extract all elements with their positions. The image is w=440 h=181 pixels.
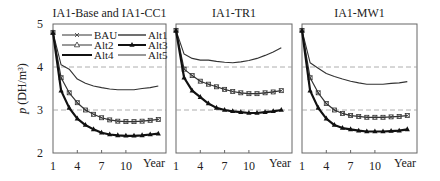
data-marker bbox=[316, 91, 320, 95]
legend-label: Alt5 bbox=[148, 49, 168, 61]
series-line bbox=[302, 30, 407, 84]
x-tick-label: 1 bbox=[50, 159, 56, 173]
legend-label: Alt4 bbox=[94, 49, 114, 61]
data-marker bbox=[59, 88, 64, 93]
series-line bbox=[176, 30, 281, 113]
x-tick-label: 1 bbox=[173, 159, 179, 173]
x-tick-label: 10 bbox=[120, 159, 132, 173]
x-tick-label: 7 bbox=[348, 159, 354, 173]
y-tick-label: 3 bbox=[37, 103, 43, 117]
x-tick-label: 4 bbox=[323, 159, 329, 173]
legend-item-alt4: Alt4 bbox=[62, 49, 114, 61]
x-tick-label: 7 bbox=[222, 159, 228, 173]
y-axis-title: p (DH/m³) bbox=[15, 63, 29, 115]
x-axis-title: Year bbox=[269, 156, 291, 170]
plot-frame bbox=[176, 24, 292, 153]
x-tick-label: 4 bbox=[197, 159, 203, 173]
chart-panel-3: IA1-MW114710Year bbox=[299, 6, 417, 173]
x-tick-label: 4 bbox=[74, 159, 80, 173]
series-line bbox=[302, 30, 407, 117]
y-tick-label: 4 bbox=[37, 60, 43, 74]
legend-item-alt5: Alt5 bbox=[118, 49, 168, 61]
data-marker bbox=[324, 102, 328, 106]
x-axis-title: Year bbox=[143, 156, 165, 170]
data-marker bbox=[190, 74, 194, 78]
y-tick-label: 5 bbox=[37, 17, 43, 31]
line-chart-figure: p (DH/m³) 2345 IA1-Base and IA1-CC114710… bbox=[0, 0, 440, 181]
data-marker bbox=[182, 75, 187, 80]
panel-title: IA1-Base and IA1-CC1 bbox=[53, 6, 167, 20]
panel-title: IA1-TR1 bbox=[212, 6, 256, 20]
data-marker bbox=[67, 91, 71, 95]
series-line bbox=[176, 30, 281, 62]
chart-panel-2: IA1-TR114710Year bbox=[173, 6, 292, 173]
open-triangle-icon bbox=[74, 42, 79, 47]
y-tick-label: 2 bbox=[37, 146, 43, 160]
data-marker bbox=[75, 101, 79, 105]
panel-title: IA1-MW1 bbox=[334, 6, 385, 20]
plot-frame bbox=[302, 24, 417, 153]
x-tick-label: 10 bbox=[243, 159, 255, 173]
legend: BAUAlt1Alt2Alt3Alt4Alt5 bbox=[62, 29, 168, 61]
x-tick-label: 10 bbox=[369, 159, 381, 173]
x-tick-label: 7 bbox=[99, 159, 105, 173]
y-axis-ticks: 2345 bbox=[37, 17, 43, 160]
x-axis-title: Year bbox=[394, 156, 416, 170]
x-tick-label: 1 bbox=[299, 159, 305, 173]
data-marker bbox=[308, 88, 313, 93]
y-axis-label: p (DH/m³) bbox=[15, 63, 29, 115]
